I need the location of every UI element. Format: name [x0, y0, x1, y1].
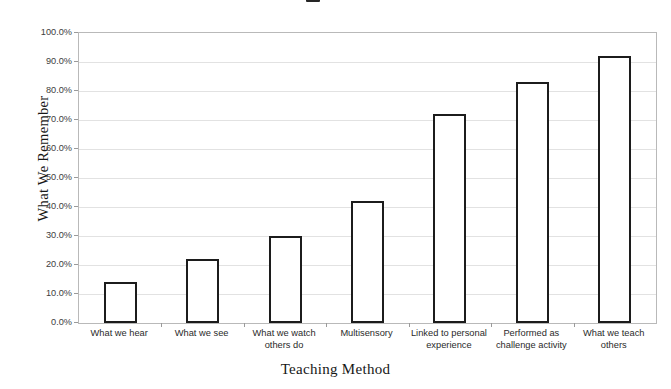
x-category-label: Multisensory: [325, 328, 407, 351]
y-tick-label: 20.0%: [6, 259, 78, 269]
y-tick-label: 40.0%: [6, 201, 78, 211]
x-tick-mark: [409, 323, 410, 327]
y-tick-label: 0.0%: [6, 317, 78, 327]
x-category-label: What we teach others: [573, 328, 655, 351]
y-axis-tick-group: 100.0%90.0%80.0%70.0%60.0%50.0%40.0%30.0…: [0, 32, 78, 322]
x-category-label: Linked to personal experience: [408, 328, 490, 351]
bar[interactable]: [269, 236, 302, 323]
y-tick-label: 100.0%: [6, 27, 78, 37]
y-tick-label: 90.0%: [6, 56, 78, 66]
x-category-label: What we watch others do: [243, 328, 325, 351]
x-category-label: What we hear: [78, 328, 160, 351]
y-tick-label: 10.0%: [6, 288, 78, 298]
y-tick-label: 60.0%: [6, 143, 78, 153]
x-category-label: Performed as challenge activity: [490, 328, 572, 351]
bar[interactable]: [598, 56, 631, 323]
bar-slot: [326, 33, 408, 323]
x-tick-mark: [491, 323, 492, 327]
x-axis-title: Teaching Method: [0, 361, 671, 378]
plot-area: [78, 32, 657, 324]
bar-slot: [244, 33, 326, 323]
bar-slot: [161, 33, 243, 323]
bar[interactable]: [104, 282, 137, 323]
bar-chart-figure: What We Remember 100.0%90.0%80.0%70.0%60…: [0, 0, 671, 389]
y-tick-label: 70.0%: [6, 114, 78, 124]
y-tick-label: 50.0%: [6, 172, 78, 182]
bar-slot: [79, 33, 161, 323]
bars-layer: [79, 33, 656, 323]
x-tick-mark: [244, 323, 245, 327]
bar-slot: [409, 33, 491, 323]
bar[interactable]: [516, 82, 549, 323]
x-tick-mark: [574, 323, 575, 327]
bar[interactable]: [186, 259, 219, 323]
bar-slot: [574, 33, 656, 323]
x-tick-mark: [161, 323, 162, 327]
y-tick-label: 30.0%: [6, 230, 78, 240]
bar[interactable]: [433, 114, 466, 323]
truncated-chart-title: [306, 0, 320, 2]
bar-slot: [491, 33, 573, 323]
x-category-label: What we see: [160, 328, 242, 351]
y-tick-label: 80.0%: [6, 85, 78, 95]
x-axis-category-labels: What we hearWhat we seeWhat we watch oth…: [78, 328, 655, 351]
bar[interactable]: [351, 201, 384, 323]
x-tick-mark: [326, 323, 327, 327]
